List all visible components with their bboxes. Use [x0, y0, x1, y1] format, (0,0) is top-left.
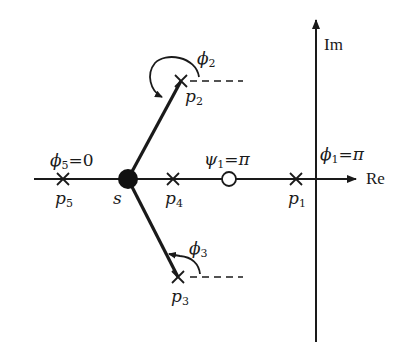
- angle-symbol: ϕ: [50, 150, 62, 170]
- angle-value: =0: [69, 150, 94, 170]
- pole-subscript: 3: [182, 295, 189, 308]
- pole-symbol: p: [288, 188, 299, 208]
- pole-p1-label: p1: [288, 190, 306, 209]
- angle-subscript: 2: [209, 57, 216, 70]
- test-point-s: [118, 169, 138, 189]
- angle-symbol: ϕ: [197, 48, 209, 68]
- pole-p4-label: p4: [165, 190, 183, 209]
- test-point-label: s: [113, 190, 122, 207]
- pole-p5-label: p5: [55, 190, 73, 209]
- angle-phi2-label: ϕ2: [197, 50, 216, 69]
- vector-p2-to-s: [128, 81, 181, 179]
- pole-symbol: p: [185, 86, 196, 106]
- angle-value: =π: [339, 144, 364, 164]
- pole-p3-label: p3: [171, 288, 189, 307]
- imag-axis-label: Im: [324, 36, 343, 53]
- angle-symbol: ϕ: [320, 144, 332, 164]
- pole-symbol: p: [171, 286, 182, 306]
- angle-subscript: 5: [62, 159, 69, 172]
- pole-subscript: 4: [176, 197, 183, 210]
- angle-psi1-label: ψ1=π: [204, 151, 250, 170]
- pole-p3-icon: [172, 271, 184, 283]
- pole-p2-label: p2: [185, 88, 203, 107]
- zero-z1-icon: [222, 172, 236, 186]
- angle-phi3-label: ϕ3: [189, 240, 208, 259]
- angle-symbol: ϕ: [189, 238, 201, 258]
- real-axis-label: Re: [366, 170, 385, 187]
- pole-subscript: 5: [66, 197, 73, 210]
- angle-value: =π: [224, 149, 249, 169]
- pole-symbol: p: [55, 188, 66, 208]
- angle-phi5-label: ϕ5=0: [50, 152, 94, 171]
- pole-symbol: p: [165, 188, 176, 208]
- pole-subscript: 2: [196, 95, 203, 108]
- angle-subscript: 1: [332, 153, 339, 166]
- angle-symbol: ψ: [204, 149, 217, 169]
- angle-subscript: 3: [201, 247, 208, 260]
- angle-phi1-label: ϕ1=π: [320, 146, 364, 165]
- pole-subscript: 1: [299, 197, 306, 210]
